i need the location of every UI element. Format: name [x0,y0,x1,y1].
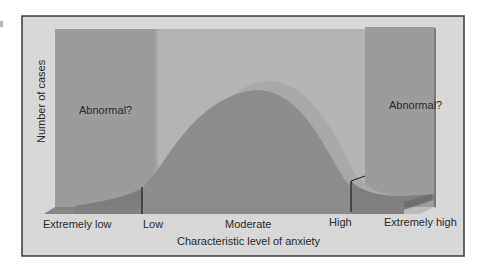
x-tick-low: Low [143,219,163,230]
right-tail-side [434,27,436,208]
x-tick-high: High [329,217,352,228]
left-tail-wall [55,29,155,207]
x-tick-extremely-high: Extremely high [384,217,457,228]
y-axis-label: Number of cases [36,60,47,143]
x-tick-moderate: Moderate [225,219,271,230]
floor [44,207,434,214]
right-tail-wall [365,27,434,207]
right-abnormal-label: Abnormal? [389,100,442,111]
x-tick-extremely-low: Extremely low [43,219,111,230]
x-axis-label: Characteristic level of anxiety [177,236,320,247]
left-abnormal-label: Abnormal? [79,105,132,116]
anxiety-diagram-drawing [0,0,501,272]
